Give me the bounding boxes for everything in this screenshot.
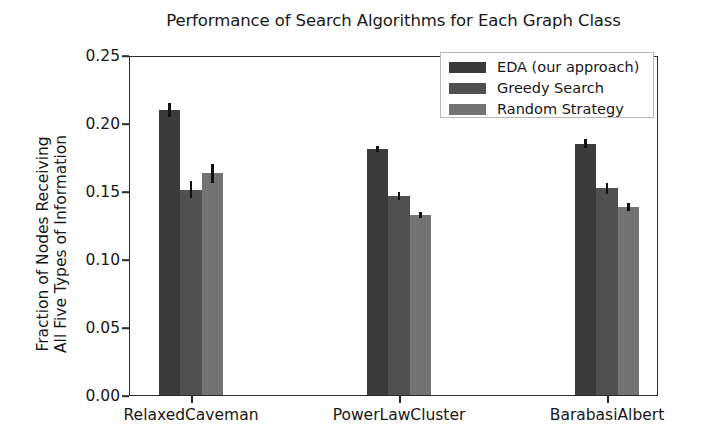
legend-label-random-strategy: Random Strategy [497, 102, 624, 117]
error-bar [211, 164, 214, 183]
x-tick-mark [607, 396, 609, 403]
x-tick-mark [191, 396, 193, 403]
y-tick-mark [122, 191, 129, 193]
error-bar [398, 192, 401, 200]
legend-swatch-greedy-search [449, 83, 486, 94]
y-axis-label-line2: All Five Types of Information [53, 64, 71, 424]
legend-label-eda: EDA (our approach) [497, 60, 639, 75]
x-tick-label-barabasialbert: BarabasiAlbert [550, 406, 664, 424]
bar-barabasialbert-greedy-search [596, 188, 618, 395]
y-tick-mark [122, 123, 129, 125]
legend-swatch-random-strategy [449, 104, 486, 115]
error-bar [168, 103, 171, 117]
legend-label-greedy-search: Greedy Search [497, 81, 604, 96]
y-axis-label: Fraction of Nodes Receiving All Five Typ… [35, 64, 71, 424]
legend: EDA (our approach) Greedy Search Random … [440, 52, 654, 118]
y-tick-mark [122, 55, 129, 57]
bar-relaxedcaveman-greedy-search [180, 190, 202, 396]
error-bar [376, 146, 379, 151]
y-tick-mark [122, 327, 129, 329]
y-tick-label-0.25: 0.25 [60, 47, 120, 65]
legend-entry-random-strategy: Random Strategy [449, 100, 645, 118]
x-tick-label-powerlawcluster: PowerLawCluster [333, 406, 466, 424]
legend-entry-greedy-search: Greedy Search [449, 79, 645, 97]
bar-relaxedcaveman-random-strategy [202, 173, 224, 395]
error-bar [190, 181, 193, 197]
bar-powerlawcluster-eda-our-approach [367, 149, 389, 395]
error-bar [606, 183, 609, 194]
chart-title: Performance of Search Algorithms for Eac… [129, 11, 658, 30]
bar-relaxedcaveman-eda-our-approach [159, 110, 181, 395]
y-tick-mark [122, 259, 129, 261]
x-tick-mark [399, 396, 401, 403]
legend-swatch-eda [449, 62, 486, 73]
chart-figure: Performance of Search Algorithms for Eac… [0, 0, 702, 448]
error-bar [627, 203, 630, 211]
x-tick-label-relaxedcaveman: RelaxedCaveman [124, 406, 259, 424]
y-axis-label-line1: Fraction of Nodes Receiving [35, 64, 53, 424]
error-bar [584, 139, 587, 147]
legend-entry-eda: EDA (our approach) [449, 58, 645, 76]
bar-barabasialbert-random-strategy [618, 207, 640, 395]
y-tick-mark [122, 395, 129, 397]
bar-barabasialbert-eda-our-approach [575, 144, 597, 395]
error-bar [419, 212, 422, 217]
bar-powerlawcluster-random-strategy [410, 215, 432, 395]
bar-powerlawcluster-greedy-search [388, 196, 410, 395]
